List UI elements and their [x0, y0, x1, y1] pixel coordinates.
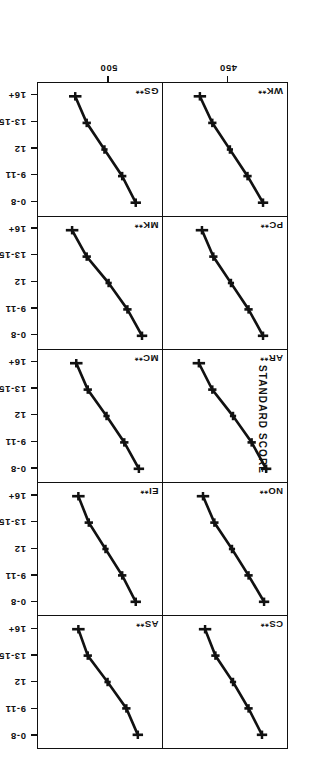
panel-plot: [38, 217, 163, 349]
category-axis-tick: [31, 654, 37, 655]
category-axis-tick: [31, 361, 37, 362]
panel-plot: [38, 83, 163, 216]
category-axis-tick: [31, 601, 37, 602]
value-axis-tick: [227, 76, 228, 82]
chart-panel: GS**: [38, 83, 163, 216]
category-axis-tick: [31, 227, 37, 228]
category-axis: 0-89-111213-1516+0-89-111213-1516+0-89-1…: [0, 82, 37, 749]
category-axis-tick-label: 16+: [8, 357, 26, 368]
category-axis-tick-label: 0-8: [10, 463, 26, 474]
value-axis: 450500: [37, 42, 288, 82]
category-axis-tick: [31, 467, 37, 468]
category-axis-tick-label: 12: [14, 143, 26, 154]
category-axis-tick: [31, 281, 37, 282]
category-axis-tick: [31, 387, 37, 388]
category-axis-tick-label: 9-11: [5, 437, 26, 448]
category-axis-tick: [31, 681, 37, 682]
chart-panel: MK**: [38, 216, 163, 349]
category-axis-tick-label: 0-8: [10, 330, 26, 341]
category-axis-tick-label: 13-15: [0, 383, 26, 394]
chart-panel: MC**: [38, 349, 163, 482]
category-axis-tick: [31, 94, 37, 95]
rotated-figure-stage: STANDARD SCORE CS**AS**NO**EI**AR**MC**P…: [0, 0, 310, 777]
category-axis-tick-label: 12: [14, 277, 26, 288]
category-axis-tick: [31, 174, 37, 175]
panel-plot: [164, 483, 288, 615]
category-axis-tick-label: 16+: [8, 90, 26, 101]
panel-plot: [38, 350, 163, 482]
category-axis-tick-label: 16+: [8, 623, 26, 634]
category-axis-tick: [31, 708, 37, 709]
category-axis-tick: [31, 254, 37, 255]
multi-panel-line-chart: STANDARD SCORE CS**AS**NO**EI**AR**MC**P…: [0, 0, 310, 777]
category-axis-tick-label: 0-8: [10, 197, 26, 208]
panel-plot: [164, 83, 288, 216]
category-axis-tick: [31, 334, 37, 335]
panel-plot: [164, 217, 288, 349]
category-axis-tick-label: 12: [14, 410, 26, 421]
category-axis-tick-label: 16+: [8, 490, 26, 501]
category-axis-tick: [31, 628, 37, 629]
category-axis-tick-label: 9-11: [5, 703, 26, 714]
category-axis-tick: [31, 307, 37, 308]
category-axis-tick-label: 9-11: [5, 170, 26, 181]
category-axis-tick-label: 13-15: [0, 250, 26, 261]
category-axis-tick: [31, 734, 37, 735]
chart-panel: NO**: [163, 482, 288, 615]
value-axis-tick-label: 500: [100, 63, 118, 74]
category-axis-tick: [31, 147, 37, 148]
category-axis-tick: [31, 574, 37, 575]
category-axis-tick-label: 12: [14, 543, 26, 554]
category-axis-tick: [31, 521, 37, 522]
panel-plot: [38, 616, 163, 748]
value-axis-tick: [107, 76, 108, 82]
panel-plot: [38, 483, 163, 615]
category-axis-tick: [31, 121, 37, 122]
category-axis-tick: [31, 548, 37, 549]
category-axis-tick: [31, 201, 37, 202]
category-axis-tick: [31, 414, 37, 415]
panel-plot: [164, 350, 288, 482]
category-axis-tick-label: 13-15: [0, 650, 26, 661]
category-axis-tick-label: 13-15: [0, 117, 26, 128]
chart-panel: WK**: [163, 83, 288, 216]
category-axis-tick-label: 0-8: [10, 597, 26, 608]
category-axis-tick-label: 9-11: [5, 303, 26, 314]
value-axis-tick-label: 450: [219, 63, 237, 74]
category-axis-tick-label: 12: [14, 677, 26, 688]
category-axis-tick-label: 0-8: [10, 730, 26, 741]
chart-panel: AS**: [38, 615, 163, 748]
panel-grid: CS**AS**NO**EI**AR**MC**PC**MK**WK**GS**: [37, 82, 288, 749]
chart-panel: AR**: [163, 349, 288, 482]
panel-plot: [164, 616, 288, 748]
chart-panel: PC**: [163, 216, 288, 349]
category-axis-tick: [31, 494, 37, 495]
category-axis-tick-label: 13-15: [0, 517, 26, 528]
category-axis-tick-label: 9-11: [5, 570, 26, 581]
chart-panel: CS**: [163, 615, 288, 748]
chart-panel: EI**: [38, 482, 163, 615]
category-axis-tick-label: 16+: [8, 223, 26, 234]
category-axis-tick: [31, 441, 37, 442]
